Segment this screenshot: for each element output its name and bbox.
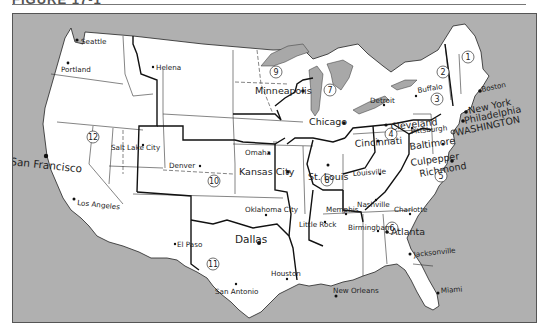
city-charlotte: Charlotte <box>394 205 428 214</box>
city-new-orleans: New Orleans <box>333 286 379 295</box>
city-el-paso: El Paso <box>177 240 202 249</box>
city-denver: Denver <box>169 161 195 170</box>
city-detroit: Detroit <box>370 96 395 105</box>
city-little-rock: Little Rock <box>299 220 337 229</box>
city-dallas: Dallas <box>235 233 267 245</box>
city-atlanta: Atlanta <box>391 226 425 237</box>
city-omaha: Omaha <box>245 148 271 157</box>
city-san-antonio: San Antonio <box>215 287 258 296</box>
district-10-marker: 10 <box>208 175 220 187</box>
svg-text:12: 12 <box>88 133 98 142</box>
city-portland: Portland <box>61 65 91 74</box>
district-9-marker: 9 <box>270 66 282 78</box>
city-nashville: Nashville <box>357 200 390 209</box>
svg-text:2: 2 <box>440 68 445 77</box>
svg-text:3: 3 <box>434 95 439 104</box>
district-7-marker: 7 <box>324 84 336 96</box>
city-salt-lake-city: Salt Lake City <box>111 143 161 152</box>
district-12-marker: 12 <box>87 131 99 143</box>
svg-text:10: 10 <box>209 177 219 186</box>
city-seattle: Seattle <box>81 37 107 46</box>
city-oklahoma-city: Oklahoma City <box>245 205 299 214</box>
header-rule <box>12 4 526 5</box>
city-minneapolis: Minneapolis <box>255 85 312 96</box>
svg-text:9: 9 <box>273 68 278 77</box>
svg-text:11: 11 <box>208 260 218 269</box>
district-2-marker: 2 <box>437 66 449 78</box>
district-3-marker: 3 <box>431 93 443 105</box>
district-11-marker: 11 <box>207 258 219 270</box>
city-jacksonville: Jacksonville <box>412 246 456 260</box>
svg-text:1: 1 <box>465 53 470 62</box>
city-chicago: Chicago <box>309 116 347 127</box>
city-birmingham: Birmingham <box>348 223 392 232</box>
city-memphis: Memphis <box>326 205 359 214</box>
city-miami: Miami <box>441 285 463 295</box>
map-canvas: 1 2 3 4 5 6 7 8 9 10 11 12 Seattle Portl… <box>13 14 537 323</box>
city-st-louis: St. Louis <box>308 171 348 182</box>
federal-reserve-map: 1 2 3 4 5 6 7 8 9 10 11 12 Seattle Portl… <box>12 13 537 323</box>
city-kansas-city: Kansas City <box>239 166 295 177</box>
svg-text:7: 7 <box>327 86 332 95</box>
city-houston: Houston <box>271 269 301 278</box>
city-helena: Helena <box>156 63 181 72</box>
district-1-marker: 1 <box>462 51 474 63</box>
